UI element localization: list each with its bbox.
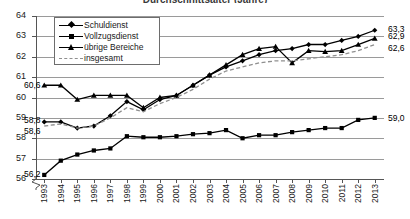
x-axis-tick: [94, 179, 95, 183]
x-axis-label: 2008: [287, 184, 297, 203]
x-axis-tick: [210, 179, 211, 183]
y-axis-tick: [32, 16, 36, 17]
x-axis-label: 1999: [138, 184, 148, 203]
y-axis-label: 64: [4, 10, 26, 20]
x-axis-tick: [176, 179, 177, 183]
legend: Schuldienst Vollzugsdienst übrige Bereic…: [54, 17, 160, 65]
y-axis-tick: [32, 77, 36, 78]
x-axis-tick: [375, 179, 376, 183]
x-axis-tick: [193, 179, 194, 183]
y-axis-label: 58: [4, 132, 26, 142]
y-axis-tick: [32, 98, 36, 99]
x-axis-tick: [325, 179, 326, 183]
x-axis-label: 2010: [320, 184, 330, 203]
x-axis-label: 1998: [122, 184, 132, 203]
legend-item-vollzugsdienst: Vollzugsdienst: [58, 31, 156, 42]
x-axis-label: 2011: [337, 184, 347, 202]
x-axis-label: 2007: [271, 184, 281, 203]
chart-container: Durchschnittsalter (Jahre) 5657585960616…: [0, 0, 410, 219]
y-axis-label: 56: [4, 173, 26, 183]
legend-item-schuldienst: Schuldienst: [58, 20, 156, 31]
x-axis-tick: [160, 179, 161, 183]
x-axis-label: 1995: [72, 184, 82, 203]
start-label-insgesamt: 58,6: [24, 126, 41, 136]
legend-key-triangle-icon: [58, 42, 84, 53]
x-axis-label: 2012: [353, 184, 363, 203]
gridline: [37, 98, 384, 99]
start-label-vollzugsdienst: 56,2: [24, 169, 41, 179]
legend-key-square-icon: [58, 31, 84, 42]
legend-label: insgesamt: [84, 53, 123, 64]
y-axis-label: 59: [4, 112, 26, 122]
x-axis-tick: [110, 179, 111, 183]
x-axis-label: 1996: [89, 184, 99, 203]
legend-item-uebrige-bereiche: übrige Bereiche: [58, 42, 156, 53]
end-label-insgesamt: 62,6: [388, 43, 405, 53]
x-axis-label: 2005: [238, 184, 248, 203]
chart-title: Durchschnittsalter (Jahre): [0, 0, 410, 3]
y-axis-label: 57: [4, 153, 26, 163]
x-axis-label: 2003: [205, 184, 215, 203]
x-axis-tick: [358, 179, 359, 183]
y-axis-label: 62: [4, 51, 26, 61]
legend-label: übrige Bereiche: [84, 42, 144, 53]
y-axis-label: 63: [4, 30, 26, 40]
x-axis-label: 2002: [188, 184, 198, 203]
y-axis-tick: [32, 36, 36, 37]
x-axis-label: 2000: [155, 184, 165, 203]
x-axis-label: 2006: [254, 184, 264, 203]
x-axis-tick: [276, 179, 277, 183]
x-axis-tick: [61, 179, 62, 183]
gridline: [37, 138, 384, 139]
x-axis-tick: [127, 179, 128, 183]
x-axis-tick: [226, 179, 227, 183]
legend-label: Schuldienst: [84, 20, 128, 31]
x-axis-tick: [309, 179, 310, 183]
legend-key-diamond-icon: [58, 20, 84, 31]
x-axis-tick: [44, 179, 45, 183]
x-axis-label: 2004: [221, 184, 231, 203]
end-label-vollzugsdienst: 59,0: [388, 113, 405, 123]
gridline: [37, 118, 384, 119]
x-axis-tick: [77, 179, 78, 183]
gridline: [37, 159, 384, 160]
x-axis-label: 1994: [56, 184, 66, 203]
legend-item-insgesamt: insgesamt: [58, 53, 156, 64]
x-axis-label: 2001: [171, 184, 181, 203]
x-axis-tick: [259, 179, 260, 183]
legend-label: Vollzugsdienst: [84, 31, 138, 42]
y-axis-label: 60: [4, 92, 26, 102]
x-axis-tick: [143, 179, 144, 183]
x-axis-label: 2009: [304, 184, 314, 203]
gridline: [37, 77, 384, 78]
start-label-uebrige-bereiche: 60,6: [24, 80, 41, 90]
end-label-uebrige-bereiche: 62,9: [388, 31, 405, 41]
x-axis-tick: [342, 179, 343, 183]
y-axis-tick: [32, 159, 36, 160]
x-axis-tick: [243, 179, 244, 183]
y-axis-label: 61: [4, 71, 26, 81]
y-axis-tick: [32, 138, 36, 139]
x-axis-tick: [292, 179, 293, 183]
x-axis-label: 1997: [105, 184, 115, 203]
y-axis-tick: [32, 57, 36, 58]
start-label-schuldienst: 58,8: [24, 115, 41, 125]
x-axis-label: 2013: [370, 184, 380, 203]
legend-key-dashed-line-icon: [58, 53, 84, 64]
